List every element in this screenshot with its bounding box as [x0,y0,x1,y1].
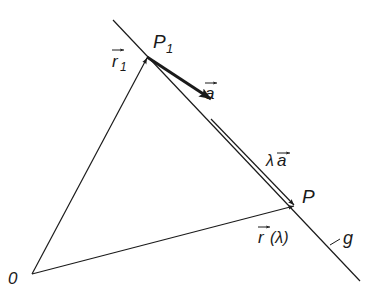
svg-text:r: r [258,228,265,247]
svg-text:P: P [153,31,166,52]
label-p: P [302,186,315,207]
label-origin: 0 [8,269,18,288]
vector-line-diagram: 0 P 1 P g r 1 a λ a r (λ) [0,0,389,306]
svg-text:a: a [205,84,214,103]
label-p1: P 1 [153,31,173,56]
vector-r-lambda [32,206,294,274]
label-r-lambda: r (λ) [258,227,289,247]
line-g-label-tick [330,239,340,245]
svg-text:(λ): (λ) [270,229,289,246]
label-r1: r 1 [112,50,127,74]
label-a: a [205,83,217,103]
vector-a [147,57,211,99]
svg-text:1: 1 [166,41,173,56]
label-lambda-a: λ a [265,151,290,170]
vector-r1 [32,58,147,274]
label-g: g [343,228,353,248]
svg-text:λ: λ [265,152,274,169]
svg-text:a: a [277,151,286,170]
svg-text:1: 1 [120,60,127,74]
svg-text:r: r [112,52,119,71]
